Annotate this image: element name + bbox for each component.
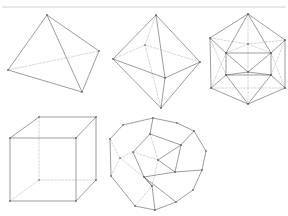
vertex-point [75, 200, 77, 202]
vertex-point [112, 58, 114, 60]
polyhedron-tetrahedron [7, 14, 100, 93]
visible-edge [226, 53, 248, 72]
vertex-point [192, 189, 194, 191]
visible-edge [8, 15, 47, 70]
hidden-edge [133, 152, 158, 160]
visible-edge [155, 202, 176, 210]
visible-edge [113, 59, 161, 108]
hidden-edge [150, 134, 158, 160]
polyhedron-octahedron [112, 14, 201, 109]
visible-edge [158, 145, 181, 160]
visible-edge [175, 170, 202, 172]
hidden-edge [110, 139, 120, 158]
visible-edge [211, 75, 226, 88]
visible-edge [76, 180, 96, 201]
visible-edge [176, 190, 193, 202]
visible-edge [144, 172, 175, 177]
vertex-point [144, 44, 146, 46]
vertex-point [7, 69, 9, 71]
hidden-edge [120, 152, 133, 158]
vertex-point [225, 52, 227, 54]
visible-edge [248, 14, 271, 53]
hidden-edge [248, 44, 271, 53]
visible-edge [271, 75, 285, 88]
vertex-point [9, 137, 11, 139]
visible-edge [161, 78, 165, 108]
vertex-point [9, 200, 11, 202]
polyhedron-icosahedron [209, 13, 286, 105]
vertex-point [164, 77, 166, 79]
vertex-point [270, 74, 272, 76]
vertex-point [180, 144, 182, 146]
visible-edge [76, 117, 96, 138]
vertex-point [284, 87, 286, 89]
vertex-point [175, 201, 177, 203]
vertex-point [134, 205, 136, 207]
visible-edge [153, 118, 177, 123]
hidden-edge [248, 40, 285, 44]
visible-edge [150, 134, 181, 145]
visible-edge [111, 176, 135, 206]
vertex-point [160, 107, 162, 109]
vertex-point [81, 91, 83, 93]
visible-edge [8, 70, 82, 92]
vertex-point [247, 43, 249, 45]
visible-edge [271, 40, 285, 53]
visible-edge [248, 14, 285, 40]
vertex-point [98, 50, 100, 52]
vertex-point [155, 14, 157, 16]
visible-edge [150, 118, 153, 134]
visible-edge [10, 117, 39, 138]
visible-edge [226, 72, 248, 75]
vertex-point [199, 61, 201, 63]
visible-edge [156, 15, 165, 78]
hidden-edge [10, 180, 39, 201]
hidden-edge [145, 45, 161, 108]
hidden-edge [145, 15, 156, 45]
vertex-point [109, 138, 111, 140]
visible-edge [113, 15, 156, 59]
visible-edge [248, 88, 285, 104]
visible-edge [152, 186, 155, 210]
visible-edge [113, 59, 165, 78]
vertex-point [95, 116, 97, 118]
polyhedron-dodecahedron [109, 117, 207, 211]
visible-edge [210, 38, 226, 53]
visible-edge [193, 170, 202, 190]
vertex-point [247, 71, 249, 73]
visible-edge [110, 125, 123, 139]
visible-edge [144, 177, 152, 186]
vertex-point [110, 175, 112, 177]
visible-edge [133, 134, 150, 152]
vertex-point [174, 171, 176, 173]
vertex-point [154, 209, 156, 211]
visible-edge [194, 131, 206, 151]
visible-edge [248, 72, 271, 75]
hidden-edge [152, 160, 158, 186]
vertex-point [38, 179, 40, 181]
vertex-point [151, 185, 153, 187]
visible-edge [248, 75, 271, 104]
visible-edge [175, 145, 181, 172]
visible-edge [82, 51, 99, 92]
vertex-point [122, 124, 124, 126]
visible-edge [110, 139, 111, 176]
visible-edge [248, 53, 271, 72]
hidden-edge [111, 158, 120, 176]
vertex-point [132, 151, 134, 153]
visible-edge [165, 62, 200, 78]
visible-edge [177, 123, 194, 131]
visible-edge [226, 14, 248, 53]
visible-edge [210, 38, 211, 88]
hidden-edge [120, 158, 144, 177]
visible-edge [47, 15, 82, 92]
visible-edge [202, 151, 206, 170]
vertex-point [193, 130, 195, 132]
visible-edge [161, 62, 200, 108]
visible-edge [226, 75, 248, 104]
vertex-point [205, 150, 207, 152]
visible-edge [210, 14, 248, 38]
visible-edge [211, 88, 248, 104]
visible-edge [133, 152, 144, 177]
visible-edge [181, 131, 194, 145]
